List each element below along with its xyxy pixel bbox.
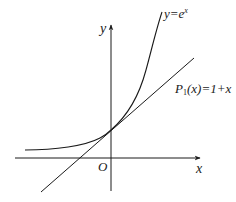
origin-label: O bbox=[98, 160, 107, 173]
tangent-line-label: P1(x)=1+x bbox=[175, 82, 231, 97]
tangent-label-name: P bbox=[175, 81, 183, 96]
exp-curve-label: y=ex bbox=[164, 7, 188, 20]
exp-curve bbox=[25, 12, 162, 150]
y-axis-label: y bbox=[100, 22, 106, 36]
tangent-label-rest: (x)=1+x bbox=[187, 81, 231, 96]
tangent-line bbox=[41, 58, 194, 192]
exp-label-exponent: x bbox=[184, 6, 188, 15]
exp-label-prefix: y=e bbox=[164, 6, 184, 21]
x-axis-label: x bbox=[196, 162, 202, 176]
